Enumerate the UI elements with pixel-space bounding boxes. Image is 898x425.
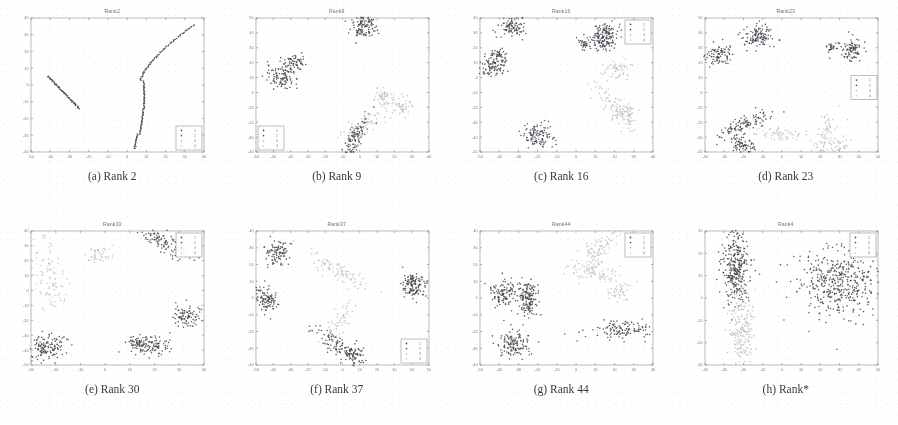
subfigure-rank37: Rank37-50-40-30-20-1001020304050-40-30-2… xyxy=(225,213,450,425)
svg-text:40: 40 xyxy=(698,30,703,35)
svg-text:-40: -40 xyxy=(697,149,703,154)
svg-text:20: 20 xyxy=(25,258,30,263)
svg-text:30: 30 xyxy=(698,228,703,233)
svg-text:-20: -20 xyxy=(697,120,703,125)
svg-text:-40: -40 xyxy=(248,149,254,154)
svg-text:0: 0 xyxy=(781,367,784,372)
subfigure-caption: (a) Rank 2 xyxy=(88,170,137,182)
svg-text:-40: -40 xyxy=(248,362,254,367)
svg-text:4: 4 xyxy=(276,144,278,148)
svg-text:0: 0 xyxy=(27,287,30,292)
svg-text:-10: -10 xyxy=(339,154,345,159)
svg-text:20: 20 xyxy=(474,45,479,50)
plot-rank30[interactable]: Rank30-30-20-10010203040-50-40-30-20-100… xyxy=(14,221,210,379)
plot-rank44[interactable]: Rank44-50-40-30-20-10010203040-40-30-20-… xyxy=(463,221,659,379)
axes-rank16: -50-40-30-20-10010203040-50-40-30-20-100… xyxy=(463,8,659,166)
svg-text:-30: -30 xyxy=(697,362,703,367)
svg-text:0: 0 xyxy=(476,295,479,300)
svg-text:2: 2 xyxy=(194,241,196,245)
svg-text:-20: -20 xyxy=(248,328,254,333)
svg-text:1: 1 xyxy=(276,129,278,133)
plot-rank9[interactable]: Rank9-60-50-40-30-20-10010203040-40-30-2… xyxy=(239,8,435,166)
svg-text:-50: -50 xyxy=(253,367,259,372)
svg-text:3: 3 xyxy=(194,139,196,143)
svg-text:20: 20 xyxy=(698,60,703,65)
svg-text:30: 30 xyxy=(837,367,842,372)
svg-text:-30: -30 xyxy=(305,154,311,159)
svg-text:30: 30 xyxy=(698,45,703,50)
svg-text:-20: -20 xyxy=(740,154,746,159)
svg-text:50: 50 xyxy=(876,367,881,372)
svg-text:4: 4 xyxy=(194,144,196,148)
svg-text:20: 20 xyxy=(249,261,254,266)
svg-text:20: 20 xyxy=(25,49,30,54)
svg-text:-30: -30 xyxy=(23,332,29,337)
legend-box: 1234 xyxy=(258,126,284,150)
svg-text:-40: -40 xyxy=(23,347,29,352)
svg-text:-10: -10 xyxy=(248,312,254,317)
svg-text:1: 1 xyxy=(869,78,871,82)
svg-text:-30: -30 xyxy=(697,135,703,140)
plot-rank23[interactable]: Rank23-40-30-20-1001020304050-40-30-20-1… xyxy=(688,8,884,166)
svg-text:2: 2 xyxy=(276,134,278,138)
svg-text:10: 10 xyxy=(698,75,703,80)
plot-rank37[interactable]: Rank37-50-40-30-20-1001020304050-40-30-2… xyxy=(239,221,435,379)
svg-text:-20: -20 xyxy=(740,367,746,372)
svg-text:20: 20 xyxy=(249,60,254,65)
svg-text:3: 3 xyxy=(194,246,196,250)
svg-text:20: 20 xyxy=(613,154,618,159)
svg-text:40: 40 xyxy=(474,15,479,20)
svg-text:20: 20 xyxy=(613,367,618,372)
svg-text:0: 0 xyxy=(104,367,107,372)
svg-text:30: 30 xyxy=(25,243,30,248)
svg-text:0: 0 xyxy=(126,154,129,159)
svg-text:30: 30 xyxy=(837,154,842,159)
subfigure-caption: (d) Rank 23 xyxy=(758,170,813,182)
svg-text:0: 0 xyxy=(27,82,30,87)
legend-box: 1234 xyxy=(850,233,876,257)
svg-text:0: 0 xyxy=(700,90,703,95)
legend-box: 1234 xyxy=(401,339,427,363)
svg-text:-30: -30 xyxy=(67,154,73,159)
subfigure-rank30: Rank30-30-20-10010203040-50-40-30-20-100… xyxy=(0,213,225,425)
svg-text:0: 0 xyxy=(251,90,254,95)
svg-text:-40: -40 xyxy=(497,154,503,159)
plot-rank16[interactable]: Rank16-50-40-30-20-10010203040-50-40-30-… xyxy=(463,8,659,166)
svg-text:10: 10 xyxy=(25,273,30,278)
svg-text:4: 4 xyxy=(643,251,645,255)
svg-text:-20: -20 xyxy=(535,367,541,372)
svg-text:20: 20 xyxy=(375,367,380,372)
svg-text:-50: -50 xyxy=(270,154,276,159)
svg-text:-20: -20 xyxy=(53,367,59,372)
scatter-points xyxy=(47,24,195,149)
svg-text:-20: -20 xyxy=(535,154,541,159)
svg-text:10: 10 xyxy=(25,66,30,71)
svg-text:2: 2 xyxy=(643,28,645,32)
svg-text:30: 30 xyxy=(474,245,479,250)
svg-text:-40: -40 xyxy=(497,367,503,372)
svg-text:-40: -40 xyxy=(23,149,29,154)
svg-text:4: 4 xyxy=(643,38,645,42)
svg-text:-30: -30 xyxy=(472,345,478,350)
svg-text:-30: -30 xyxy=(721,367,727,372)
svg-text:-30: -30 xyxy=(516,154,522,159)
plot-rank2[interactable]: Rank2-50-40-30-20-10010203040-40-30-20-1… xyxy=(14,8,210,166)
legend-box: 1234 xyxy=(176,233,202,257)
plot-rankstar[interactable]: Rank4-40-30-20-1001020304050-30-20-10010… xyxy=(688,221,884,379)
subfigure-caption: (f) Rank 37 xyxy=(310,383,363,395)
svg-text:10: 10 xyxy=(799,367,804,372)
svg-text:-20: -20 xyxy=(23,116,29,121)
legend-box: 1234 xyxy=(851,76,877,100)
svg-text:-20: -20 xyxy=(305,367,311,372)
svg-text:50: 50 xyxy=(698,15,703,20)
subfigure-caption: (c) Rank 16 xyxy=(534,170,588,182)
svg-text:30: 30 xyxy=(409,154,414,159)
svg-text:2: 2 xyxy=(643,241,645,245)
svg-text:50: 50 xyxy=(249,15,254,20)
svg-text:-10: -10 xyxy=(554,154,560,159)
subfigure-caption: (h) Rank* xyxy=(763,383,809,395)
svg-text:-30: -30 xyxy=(721,154,727,159)
svg-text:-30: -30 xyxy=(472,120,478,125)
svg-text:40: 40 xyxy=(249,228,254,233)
svg-text:-30: -30 xyxy=(248,345,254,350)
